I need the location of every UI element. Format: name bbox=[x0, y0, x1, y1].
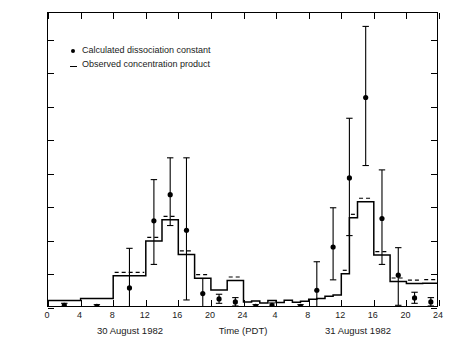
data-point-marker bbox=[379, 216, 384, 221]
x-tick bbox=[309, 300, 310, 306]
y-tick bbox=[48, 308, 54, 309]
x-tick bbox=[309, 13, 310, 19]
x-tick-label: 8 bbox=[100, 311, 124, 320]
x-tick bbox=[211, 300, 212, 306]
data-point-marker bbox=[428, 299, 433, 304]
data-point-marker bbox=[94, 304, 99, 306]
x-tick bbox=[439, 13, 440, 19]
x-axis-title: Time (PDT) bbox=[183, 326, 303, 336]
x-tick bbox=[211, 13, 212, 19]
y-tick bbox=[48, 207, 54, 208]
figure: [HNO3(g)] × [NH3(g)] (ppb2) Calculated d… bbox=[0, 0, 451, 342]
day1-caption: 30 August 1982 bbox=[70, 326, 190, 336]
filled-circle-icon bbox=[66, 43, 80, 57]
x-tick bbox=[48, 13, 49, 19]
y-tick bbox=[431, 107, 437, 108]
y-tick bbox=[48, 107, 54, 108]
plot-frame: Calculated dissociation constant Observe… bbox=[47, 12, 438, 307]
observed-step-line bbox=[48, 202, 437, 303]
x-tick-label: 16 bbox=[165, 311, 189, 320]
legend-item: Calculated dissociation constant bbox=[66, 43, 211, 57]
x-tick bbox=[113, 300, 114, 306]
data-point-marker bbox=[412, 295, 417, 300]
y-tick bbox=[431, 73, 437, 74]
x-tick bbox=[81, 300, 82, 306]
x-tick-label: 12 bbox=[328, 311, 352, 320]
data-point-marker bbox=[253, 304, 258, 306]
data-point-marker bbox=[127, 285, 132, 290]
y-tick bbox=[431, 140, 437, 141]
x-tick bbox=[276, 13, 277, 19]
chart-legend: Calculated dissociation constant Observe… bbox=[66, 43, 211, 71]
y-tick bbox=[48, 73, 54, 74]
x-tick bbox=[406, 300, 407, 306]
y-tick bbox=[48, 40, 54, 41]
legend-item: Observed concentration product bbox=[66, 57, 211, 71]
y-tick bbox=[48, 140, 54, 141]
y-tick bbox=[431, 174, 437, 175]
x-tick bbox=[406, 13, 407, 19]
y-tick bbox=[48, 274, 54, 275]
x-tick-label: 16 bbox=[361, 311, 385, 320]
data-point-marker bbox=[184, 228, 189, 233]
y-tick bbox=[431, 40, 437, 41]
y-tick bbox=[48, 241, 54, 242]
x-tick bbox=[276, 300, 277, 306]
x-tick-label: 12 bbox=[133, 311, 157, 320]
data-point-marker bbox=[314, 288, 319, 293]
data-point-marker bbox=[168, 192, 173, 197]
x-tick bbox=[439, 300, 440, 306]
data-point-marker bbox=[151, 218, 156, 223]
dash-icon bbox=[66, 57, 80, 71]
x-tick-label: 20 bbox=[198, 311, 222, 320]
x-tick-label: 4 bbox=[68, 311, 92, 320]
y-tick bbox=[431, 308, 437, 309]
data-point-marker bbox=[396, 273, 401, 278]
x-tick bbox=[113, 13, 114, 19]
x-tick bbox=[146, 300, 147, 306]
data-point-marker bbox=[331, 244, 336, 249]
data-point-marker bbox=[233, 299, 238, 304]
x-tick bbox=[244, 13, 245, 19]
x-tick bbox=[374, 13, 375, 19]
x-tick bbox=[178, 13, 179, 19]
x-tick bbox=[341, 300, 342, 306]
data-point-marker bbox=[216, 296, 221, 301]
data-point-marker bbox=[347, 175, 352, 180]
x-tick-label: 24 bbox=[231, 311, 255, 320]
x-tick bbox=[48, 300, 49, 306]
x-tick bbox=[81, 13, 82, 19]
data-point-marker bbox=[363, 95, 368, 100]
x-tick bbox=[178, 300, 179, 306]
x-tick-label: 8 bbox=[296, 311, 320, 320]
day2-caption: 31 August 1982 bbox=[298, 326, 418, 336]
y-tick bbox=[431, 274, 437, 275]
data-point-marker bbox=[200, 291, 205, 296]
x-tick bbox=[146, 13, 147, 19]
x-tick-label: 20 bbox=[393, 311, 417, 320]
data-point-marker bbox=[298, 304, 303, 306]
y-tick bbox=[48, 174, 54, 175]
x-tick bbox=[244, 300, 245, 306]
y-tick bbox=[431, 207, 437, 208]
x-tick-label: 0 bbox=[35, 311, 59, 320]
legend-label: Observed concentration product bbox=[80, 57, 210, 71]
x-tick bbox=[341, 13, 342, 19]
x-tick-label: 24 bbox=[426, 311, 450, 320]
x-tick bbox=[374, 300, 375, 306]
y-tick bbox=[431, 241, 437, 242]
legend-label: Calculated dissociation constant bbox=[80, 43, 211, 57]
x-tick-label: 4 bbox=[263, 311, 287, 320]
